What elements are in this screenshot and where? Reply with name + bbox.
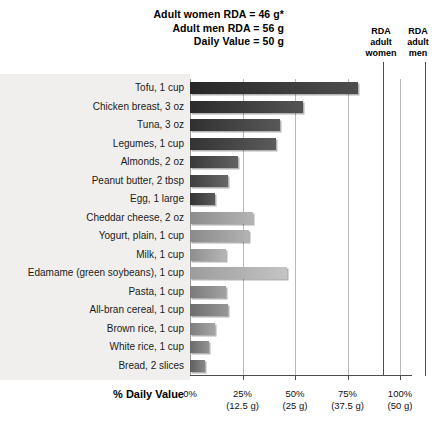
row-label: Yogurt, plain, 1 cup — [0, 227, 184, 246]
tick-label-percent: 0% — [183, 388, 197, 399]
row-label: White rice, 1 cup — [0, 338, 184, 357]
chart-row: Peanut butter, 2 tbsp — [0, 172, 441, 191]
bar — [190, 212, 253, 224]
bar — [190, 230, 249, 242]
tick-75pct — [348, 375, 349, 380]
tick-label-25pct: 25%(12.5 g) — [217, 388, 269, 411]
row-label: Pasta, 1 cup — [0, 283, 184, 302]
rda-adult-men-heading-line2: adult — [398, 37, 438, 48]
rda-adult-men-heading: RDA adult men — [398, 26, 438, 59]
tick-label-percent: 50% — [285, 388, 304, 399]
bar — [190, 138, 276, 150]
row-label: All-bran cereal, 1 cup — [0, 301, 184, 320]
rda-note-line-3: Daily Value = 50 g — [14, 35, 284, 49]
rda-note-line-1: Adult women RDA = 46 g* — [14, 8, 284, 22]
row-label: Bread, 2 slices — [0, 357, 184, 376]
chart-row: Legumes, 1 cup — [0, 135, 441, 154]
chart-row: Tuna, 3 oz — [0, 116, 441, 135]
tick-label-percent: 25% — [233, 388, 252, 399]
chart-row: White rice, 1 cup — [0, 338, 441, 357]
bar — [190, 323, 215, 335]
bar — [190, 267, 287, 279]
rda-adult-women-line — [383, 62, 384, 376]
row-label: Legumes, 1 cup — [0, 135, 184, 154]
row-label: Cheddar cheese, 2 oz — [0, 209, 184, 228]
tick-label-grams: (25 g) — [269, 400, 321, 412]
bar — [190, 119, 280, 131]
row-label: Almonds, 2 oz — [0, 153, 184, 172]
tick-label-grams: (12.5 g) — [217, 400, 269, 412]
row-label: Brown rice, 1 cup — [0, 320, 184, 339]
tick-25pct — [243, 375, 244, 380]
tick-label-50pct: 50%(25 g) — [269, 388, 321, 411]
chart-row: Edamame (green soybeans), 1 cup — [0, 264, 441, 283]
tick-label-grams: (37.5 g) — [322, 400, 374, 412]
bar — [190, 82, 358, 94]
chart-row: Tofu, 1 cup — [0, 79, 441, 98]
chart-row: Egg, 1 large — [0, 190, 441, 209]
rda-adult-men-heading-line1: RDA — [398, 26, 438, 37]
bar — [190, 249, 226, 261]
tick-label-0pct: 0% — [164, 388, 216, 400]
tick-label-grams: (50 g) — [374, 400, 426, 412]
row-label: Egg, 1 large — [0, 190, 184, 209]
bar — [190, 175, 228, 187]
row-label: Chicken breast, 3 oz — [0, 98, 184, 117]
tick-label-75pct: 75%(37.5 g) — [322, 388, 374, 411]
row-label: Tuna, 3 oz — [0, 116, 184, 135]
protein-daily-value-chart: Adult women RDA = 46 g* Adult men RDA = … — [0, 0, 441, 429]
chart-row: Almonds, 2 oz — [0, 153, 441, 172]
chart-row: Cheddar cheese, 2 oz — [0, 209, 441, 228]
row-label: Milk, 1 cup — [0, 246, 184, 265]
chart-row: Bread, 2 slices — [0, 357, 441, 376]
bar — [190, 304, 228, 316]
x-axis-line — [190, 375, 412, 376]
tick-50pct — [295, 375, 296, 380]
row-label: Edamame (green soybeans), 1 cup — [0, 264, 184, 283]
rda-note-line-2: Adult men RDA = 56 g — [14, 22, 284, 36]
tick-label-100pct: 100%(50 g) — [374, 388, 426, 411]
chart-row: Chicken breast, 3 oz — [0, 98, 441, 117]
chart-row: Yogurt, plain, 1 cup — [0, 227, 441, 246]
rda-adult-men-line — [425, 62, 426, 376]
bar — [190, 193, 215, 205]
row-label: Tofu, 1 cup — [0, 79, 184, 98]
bar — [190, 156, 238, 168]
chart-row: All-bran cereal, 1 cup — [0, 301, 441, 320]
row-label: Peanut butter, 2 tbsp — [0, 172, 184, 191]
tick-label-percent: 100% — [388, 388, 412, 399]
chart-row: Brown rice, 1 cup — [0, 320, 441, 339]
rda-note-block: Adult women RDA = 46 g* Adult men RDA = … — [14, 8, 284, 49]
bar — [190, 286, 226, 298]
chart-row: Milk, 1 cup — [0, 246, 441, 265]
tick-label-percent: 75% — [338, 388, 357, 399]
rda-adult-men-heading-line3: men — [398, 48, 438, 59]
bar — [190, 360, 205, 372]
bar — [190, 341, 209, 353]
chart-row: Pasta, 1 cup — [0, 283, 441, 302]
tick-100pct — [400, 375, 401, 380]
bar — [190, 101, 303, 113]
